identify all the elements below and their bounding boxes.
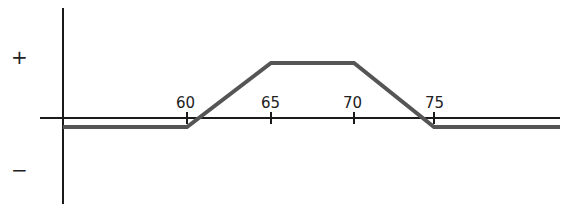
tick-label-60: 60 xyxy=(176,94,195,112)
tick-label-75: 75 xyxy=(425,94,444,112)
tick-label-65: 65 xyxy=(261,94,280,112)
negative-label: − xyxy=(11,158,28,182)
positive-label: + xyxy=(11,45,28,69)
payoff-chart: 60 65 70 75 + − xyxy=(0,0,565,214)
tick-label-70: 70 xyxy=(343,94,362,112)
